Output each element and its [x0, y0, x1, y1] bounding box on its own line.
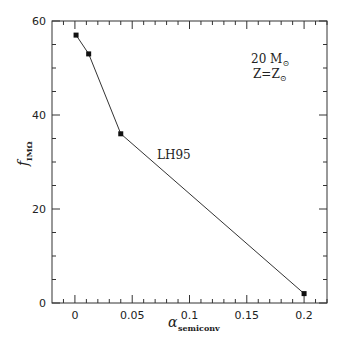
svg-text:0: 0 [71, 309, 78, 322]
line-label: LH95 [157, 148, 191, 162]
chart: 00.050.10.150.20204060 LH95 20 M⊙ Z=Z⊙ α… [0, 0, 345, 349]
svg-text:0.15: 0.15 [235, 309, 260, 322]
y-axis-label: f IMΩ [15, 141, 34, 167]
mass-annotation: 20 M⊙ Z=Z⊙ [251, 52, 289, 83]
data-point-marker [74, 33, 79, 38]
svg-text:Z=Z⊙: Z=Z⊙ [253, 67, 286, 83]
svg-text:40: 40 [32, 109, 46, 122]
data-point-marker [86, 51, 91, 56]
svg-text:0.1: 0.1 [181, 309, 199, 322]
svg-text:IMΩ: IMΩ [24, 141, 34, 161]
svg-text:0.2: 0.2 [295, 309, 313, 322]
svg-text:60: 60 [32, 15, 46, 28]
svg-text:0: 0 [39, 297, 46, 310]
data-point-marker [118, 131, 123, 136]
data-point-marker [302, 291, 307, 296]
svg-text:0.05: 0.05 [120, 309, 145, 322]
svg-text:semiconv: semiconv [178, 323, 220, 333]
svg-text:α: α [168, 314, 178, 330]
svg-text:20 M⊙: 20 M⊙ [251, 52, 289, 68]
svg-text:20: 20 [32, 203, 46, 216]
